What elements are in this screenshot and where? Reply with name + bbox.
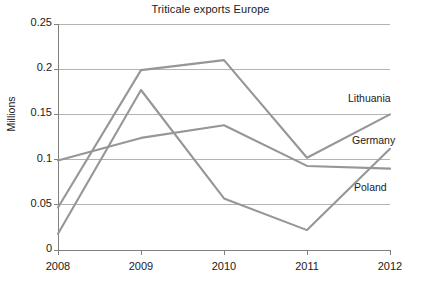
series-line-poland [58,90,390,234]
series-line-lithuania [58,60,390,207]
gridlines [58,24,390,250]
line-chart: Triticale exports Europe Millions 0.25 0… [0,0,421,284]
plot-area [0,0,421,284]
axes [54,24,390,255]
series-lines [58,60,390,234]
